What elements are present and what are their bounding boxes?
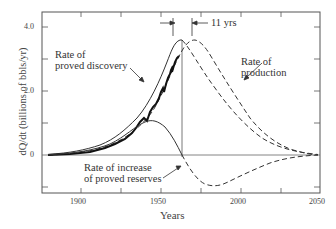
x-tick-2000: 2000 [230, 197, 246, 206]
x-tick-1950: 1950 [150, 197, 166, 206]
series-reserves [48, 121, 182, 155]
label-lag-11-yrs: 11 yrs [211, 17, 237, 28]
y-tick-2: 2.0 [24, 86, 34, 95]
label-production-line2: production [241, 67, 287, 78]
x-tick-1900: 1900 [70, 197, 86, 206]
x-tick-2050: 2050 [309, 197, 325, 206]
x-axis-label: Years [160, 209, 185, 221]
series-reserves-projected [182, 155, 318, 186]
label-discovery-line2: proved discovery [55, 60, 128, 71]
y-axis-label: dQ/dt (billions of bbls/yr) [17, 22, 28, 182]
label-production-line1: Rate of [241, 56, 272, 67]
series-production [48, 40, 318, 155]
label-reserves-line2: of proved reserves [84, 173, 162, 184]
y-tick-0: 0 [30, 150, 34, 159]
annotation-arrows [130, 18, 262, 178]
label-discovery-line1: Rate of [55, 49, 86, 60]
chart-svg [0, 0, 336, 229]
label-reserves-line1: Rate of increase [84, 162, 152, 173]
y-tick-4: 4.0 [24, 22, 34, 31]
